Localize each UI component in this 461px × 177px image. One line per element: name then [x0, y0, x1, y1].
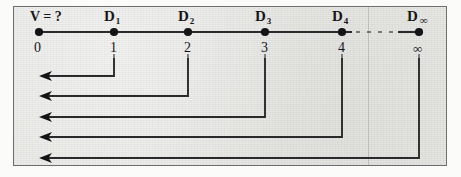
number-label-infinity: ∞: [413, 42, 422, 55]
arrow-path-from-3: [48, 58, 265, 117]
number-label-0: 0: [34, 41, 41, 55]
dot-2: [184, 28, 192, 36]
label-d2-subscript: 2: [190, 16, 195, 26]
arrow-path-from-1: [48, 58, 114, 76]
label-d4-subscript: 4: [344, 16, 349, 26]
number-label-4: 4: [338, 41, 345, 55]
number-label-1: 1: [110, 41, 117, 55]
label-d1: D1: [104, 9, 119, 24]
arrow-path-from-infinity: [48, 58, 419, 158]
label-d-infinity-base: D: [407, 8, 418, 24]
label-d3: D3: [255, 9, 270, 24]
arrow-path-from-4: [48, 58, 342, 137]
label-d2-base: D: [178, 8, 189, 24]
number-label-3: 3: [261, 41, 268, 55]
value-question-label: V = ?: [30, 10, 62, 24]
dot-0: [35, 28, 43, 36]
label-d-infinity: D∞: [407, 9, 426, 24]
label-d4: D4: [332, 9, 347, 24]
dot-4: [338, 28, 346, 36]
label-d1-base: D: [104, 8, 115, 24]
label-d3-subscript: 3: [267, 16, 272, 26]
arrow-path-from-2: [48, 58, 188, 96]
feedback-arrows: [48, 58, 419, 158]
label-d3-base: D: [255, 8, 266, 24]
dot-1: [110, 28, 118, 36]
number-label-2: 2: [184, 41, 191, 55]
label-d1-subscript: 1: [116, 16, 121, 26]
label-d2: D2: [178, 9, 193, 24]
dot-infinity: [415, 28, 423, 36]
diagram-artwork: [0, 0, 461, 177]
figure-root: V = ? D1 D2 D3 D4 D∞ 0 1 2 3 4 ∞: [0, 0, 461, 177]
label-d-infinity-subscript: ∞: [420, 14, 428, 26]
dot-3: [261, 28, 269, 36]
label-d4-base: D: [332, 8, 343, 24]
